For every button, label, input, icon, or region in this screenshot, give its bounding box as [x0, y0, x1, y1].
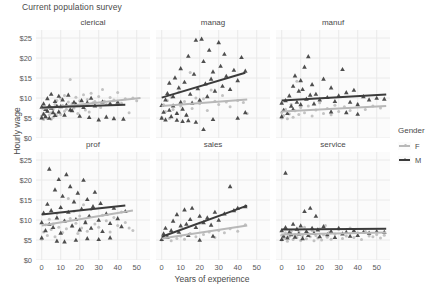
data-point [308, 93, 313, 97]
facet-panel-manuf [276, 30, 390, 138]
data-point [178, 223, 183, 227]
data-point [45, 202, 50, 206]
data-point [228, 87, 233, 91]
data-point [239, 55, 244, 59]
data-point [116, 91, 119, 94]
data-point [379, 237, 382, 240]
data-point [172, 108, 175, 111]
data-point [169, 114, 174, 118]
data-point [170, 239, 173, 242]
data-point [205, 94, 210, 98]
data-point [355, 112, 360, 116]
data-point [78, 215, 81, 218]
legend-key-F-icon [398, 142, 411, 150]
x-tick-label: 30 [212, 263, 226, 272]
data-point [348, 234, 353, 238]
y-tick-label: $10 [8, 216, 32, 225]
data-point [313, 239, 316, 242]
data-point [183, 100, 186, 103]
data-point [308, 206, 313, 210]
x-tick-label: 50 [370, 263, 384, 272]
facet-panel-sales [156, 152, 270, 260]
x-tick-label: 30 [332, 263, 346, 272]
data-point [220, 84, 225, 88]
facet-strip-label-manag: manag [156, 18, 270, 27]
data-point [39, 220, 44, 224]
data-point [100, 229, 105, 233]
data-point [287, 93, 292, 97]
x-tick-label: 40 [351, 263, 365, 272]
x-tick-label: 40 [231, 263, 245, 272]
legend-key-M-icon [398, 156, 411, 164]
y-tick-label: $5 [8, 114, 32, 123]
facet-plot-area-sales [156, 152, 270, 260]
y-tick-label: $20 [8, 176, 32, 185]
legend-item-M[interactable]: M [398, 154, 438, 166]
data-point [352, 88, 357, 92]
data-point [216, 40, 221, 44]
data-point [183, 238, 186, 241]
data-point [55, 239, 60, 243]
data-point [74, 96, 77, 99]
data-point [184, 113, 189, 117]
data-point [194, 120, 199, 124]
x-tick-label: 10 [174, 263, 188, 272]
data-point [64, 172, 69, 176]
x-tick-label: 20 [193, 263, 207, 272]
data-point [305, 237, 308, 240]
facet-panel-prof [36, 152, 150, 260]
data-point [49, 92, 54, 96]
data-point [49, 208, 54, 212]
data-point [54, 235, 57, 238]
data-point [175, 237, 178, 240]
data-point [39, 115, 44, 119]
data-point [175, 111, 180, 115]
data-point [82, 93, 85, 96]
data-point [302, 65, 307, 69]
data-point [67, 101, 70, 104]
data-point [184, 222, 189, 226]
chart-title: Current population survey [22, 2, 122, 12]
data-point [314, 92, 319, 96]
data-point [51, 225, 56, 229]
facet-strip-label-manuf: manuf [276, 18, 390, 27]
x-axis-title: Years of experience [36, 274, 388, 284]
data-point [167, 81, 172, 85]
data-point [86, 230, 89, 233]
y-tick-label: $20 [8, 54, 32, 63]
data-point [333, 104, 336, 107]
data-point [191, 107, 194, 110]
data-point [89, 226, 94, 230]
data-point [286, 117, 289, 120]
data-point [88, 111, 91, 114]
data-point [344, 90, 349, 94]
data-point [85, 236, 90, 240]
facet-strip-label-prof: prof [36, 140, 150, 149]
data-point [163, 226, 168, 230]
data-point [109, 231, 112, 234]
data-point [58, 205, 63, 209]
data-point [310, 82, 315, 86]
chart-container: Current population survey Hourly wage Ye… [0, 0, 438, 289]
data-point [209, 77, 214, 81]
data-point [97, 226, 100, 229]
facet-strip-label-clerical: clerical [36, 18, 150, 27]
data-point [112, 216, 115, 219]
data-point [192, 72, 197, 76]
data-point [186, 54, 191, 58]
trend-line-M [282, 94, 387, 100]
data-point [348, 100, 353, 104]
data-point [83, 220, 88, 224]
data-point [74, 222, 77, 225]
data-point [197, 214, 202, 218]
data-point [303, 226, 306, 229]
data-point [312, 101, 317, 105]
data-point [360, 238, 363, 241]
facet-plot-area-prof [36, 152, 150, 260]
facet-plot-area-manag [156, 30, 270, 138]
data-point [213, 210, 218, 214]
data-point [364, 108, 367, 111]
data-point [341, 237, 344, 240]
legend-item-F[interactable]: F [398, 140, 438, 152]
data-point [283, 225, 288, 229]
